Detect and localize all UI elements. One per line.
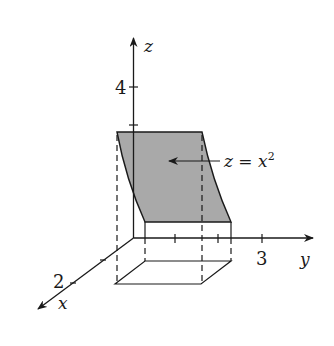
surface-equation-label: z = x2 [223, 150, 275, 171]
z-tick-label: 4 [115, 77, 126, 98]
x-axis-label: x [58, 293, 68, 313]
svg-text:z = x2: z = x2 [223, 150, 275, 171]
z-axis-label: z [143, 36, 154, 56]
x-tick-label: 2 [53, 271, 64, 292]
surface-diagram: z 4 y 3 2 x z = x2 [0, 0, 334, 346]
y-tick-label: 3 [256, 248, 267, 269]
y-axis-label: y [299, 249, 310, 269]
base-region [115, 261, 231, 284]
